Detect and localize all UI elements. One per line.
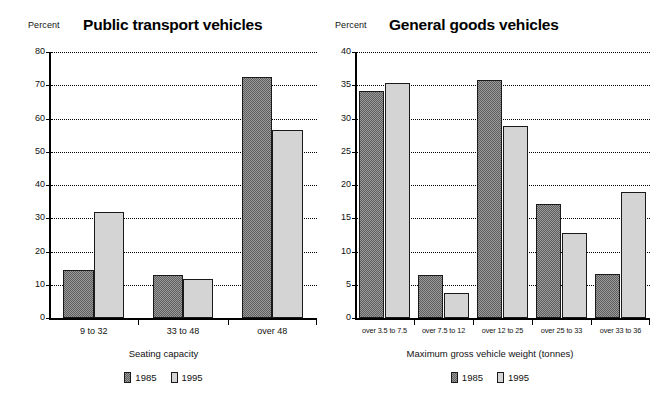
- y-axis-tick: [352, 218, 356, 219]
- chart-title-right: General goods vehicles: [389, 16, 559, 34]
- x-axis-category-label: 9 to 32: [49, 326, 138, 336]
- y-axis-tick: [46, 152, 50, 153]
- y-axis-tick: [352, 252, 356, 253]
- y-axis-tick: [352, 85, 356, 86]
- bar-1985-33-to-48: [153, 275, 183, 318]
- y-axis-tick-label: 10: [21, 280, 45, 289]
- bar-1985-9-to-32: [63, 270, 93, 318]
- y-axis-tick: [46, 52, 50, 53]
- legend-item-1995-right: 1995: [497, 372, 529, 383]
- bar-1995-over-48: [272, 130, 302, 318]
- bar-1995-over-33-to-36: [621, 192, 647, 318]
- y-axis-tick-label: 35: [327, 80, 351, 89]
- y-axis-tick-label: 30: [21, 213, 45, 222]
- panel-public-transport-vehicles: Percent Public transport vehicles 010203…: [0, 0, 327, 411]
- legend-swatch-1995-left: [171, 372, 178, 383]
- y-axis-unit-label-left: Percent: [28, 20, 60, 30]
- x-axis-title-right: Maximum gross vehicle weight (tonnes): [327, 348, 653, 359]
- x-axis-end-tick: [649, 320, 650, 325]
- legend-right: 1985 1995: [327, 372, 653, 383]
- x-axis-category-label: over 25 to 33: [532, 326, 591, 336]
- y-axis-tick-label: 70: [21, 80, 45, 89]
- plot-area-left: 010203040506070809 to 3233 to 48over 48: [49, 52, 317, 318]
- x-axis-group-tick: [228, 320, 229, 325]
- y-axis-tick-label: 15: [327, 213, 351, 222]
- x-axis-group-tick: [473, 320, 474, 325]
- panel-general-goods-vehicles: Percent General goods vehicles 051015202…: [327, 0, 653, 411]
- x-axis-line: [355, 318, 650, 320]
- x-axis-category-label: over 33 to 36: [591, 326, 650, 336]
- y-axis-tick-label: 20: [21, 247, 45, 256]
- x-axis-end-tick: [316, 320, 317, 325]
- bar-1985-over-33-to-36: [595, 274, 621, 318]
- y-axis-tick: [46, 285, 50, 286]
- x-axis-category-label: over 12 to 25: [473, 326, 532, 336]
- legend-swatch-1985-left: [124, 372, 131, 383]
- x-axis-group-tick: [591, 320, 592, 325]
- chart-title-left: Public transport vehicles: [83, 16, 262, 34]
- bar-1995-33-to-48: [183, 279, 213, 318]
- y-axis-tick-label: 40: [327, 47, 351, 56]
- y-axis-tick-label: 0: [327, 313, 351, 322]
- bar-1995-over-25-to-33: [562, 233, 588, 318]
- bar-1995-over-7-5-to-12: [444, 293, 470, 318]
- y-axis-tick-label: 5: [327, 280, 351, 289]
- x-axis-title-left: Seating capacity: [0, 348, 327, 359]
- y-axis-tick: [46, 318, 50, 319]
- y-axis-tick: [46, 185, 50, 186]
- y-axis-tick-label: 80: [21, 47, 45, 56]
- x-axis-group-tick: [414, 320, 415, 325]
- gridline: [357, 52, 650, 53]
- bar-1985-over-25-to-33: [536, 204, 562, 318]
- y-axis-tick: [46, 252, 50, 253]
- y-axis-tick-label: 30: [327, 114, 351, 123]
- gridline: [51, 52, 317, 53]
- bar-1985-over-7-5-to-12: [418, 275, 444, 318]
- y-axis-tick-label: 50: [21, 147, 45, 156]
- y-axis-tick: [352, 119, 356, 120]
- y-axis-tick: [352, 285, 356, 286]
- y-axis-tick: [46, 218, 50, 219]
- legend-label-1985-right: 1985: [462, 372, 483, 383]
- x-axis-category-label: over 7.5 to 12: [414, 326, 473, 336]
- y-axis-tick: [352, 52, 356, 53]
- y-axis-unit-label-right: Percent: [335, 20, 367, 30]
- y-axis-tick: [46, 119, 50, 120]
- legend-swatch-1985-right: [451, 372, 458, 383]
- y-axis-tick-label: 25: [327, 147, 351, 156]
- legend-label-1985-left: 1985: [135, 372, 156, 383]
- bar-1985-over-3-5-to-7-5: [359, 91, 385, 318]
- y-axis-tick: [352, 152, 356, 153]
- gridline: [51, 85, 317, 86]
- legend-label-1995-left: 1995: [182, 372, 203, 383]
- x-axis-category-label: over 48: [228, 326, 317, 336]
- bar-1985-over-48: [242, 77, 272, 318]
- y-axis-tick: [46, 85, 50, 86]
- y-axis-tick-label: 40: [21, 180, 45, 189]
- legend-label-1995-right: 1995: [508, 372, 529, 383]
- legend-left: 1985 1995: [0, 372, 327, 383]
- bar-1995-9-to-32: [94, 212, 124, 318]
- legend-item-1995-left: 1995: [171, 372, 203, 383]
- gridline: [51, 119, 317, 120]
- legend-swatch-1995-right: [497, 372, 504, 383]
- x-axis-category-label: over 3.5 to 7.5: [355, 326, 414, 336]
- plot-area-right: 0510152025303540over 3.5 to 7.5over 7.5 …: [355, 52, 650, 318]
- y-axis-tick: [352, 318, 356, 319]
- y-axis-tick-label: 20: [327, 180, 351, 189]
- bar-1985-over-12-to-25: [477, 80, 503, 318]
- y-axis-tick-label: 60: [21, 114, 45, 123]
- x-axis-category-label: 33 to 48: [138, 326, 227, 336]
- y-axis-tick-label: 0: [21, 313, 45, 322]
- y-axis-tick-label: 10: [327, 247, 351, 256]
- y-axis-tick: [352, 185, 356, 186]
- legend-item-1985-right: 1985: [451, 372, 483, 383]
- bar-1995-over-12-to-25: [503, 126, 529, 318]
- x-axis-group-tick: [138, 320, 139, 325]
- bar-1995-over-3-5-to-7-5: [385, 83, 411, 318]
- x-axis-group-tick: [532, 320, 533, 325]
- two-panel-bar-chart-figure: Percent Public transport vehicles 010203…: [0, 0, 653, 411]
- legend-item-1985-left: 1985: [124, 372, 156, 383]
- x-axis-line: [49, 318, 317, 320]
